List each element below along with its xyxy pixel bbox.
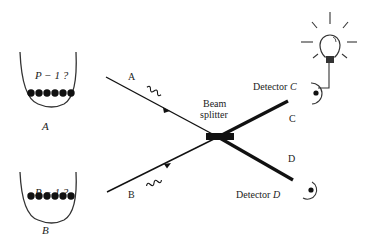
detector-d: Detector D <box>236 182 317 200</box>
beam-b: B <box>107 137 218 200</box>
beam-a: A <box>106 71 218 137</box>
detector-d-dot <box>308 187 313 192</box>
detector-c: Detector C <box>253 60 329 104</box>
beam-splitter-plate <box>206 133 234 140</box>
photon-wave-a-icon <box>146 85 162 96</box>
detector-wire <box>318 60 329 88</box>
source-b: P − 1 ? B <box>20 172 76 236</box>
beam-splitter-label-line1: Beam <box>203 98 227 109</box>
beam-label-a: A <box>128 71 136 82</box>
light-bulb-icon <box>301 12 357 63</box>
detector-d-text: Detector D <box>236 189 281 200</box>
atoms-a <box>27 89 74 96</box>
source-label-b: B <box>42 224 49 236</box>
output-beam-c <box>218 101 288 137</box>
source-a: P − 1 ? A <box>20 52 76 132</box>
beam-label-b: B <box>128 189 135 200</box>
output-beam-d <box>218 137 293 180</box>
well-label-a: P − 1 ? <box>34 69 69 81</box>
beam-label-c: C <box>289 113 296 124</box>
beam-label-d: D <box>288 153 295 164</box>
source-label-a: A <box>41 120 49 132</box>
detector-c-text: Detector C <box>253 81 297 92</box>
beam-splitter-label-line2: splitter <box>200 109 228 120</box>
photon-wave-b-icon <box>146 178 162 188</box>
detector-c-dot <box>313 90 318 95</box>
beam-splitter-diagram: P − 1 ? A P − 1 ? B A B Beam splitter <box>0 0 376 249</box>
